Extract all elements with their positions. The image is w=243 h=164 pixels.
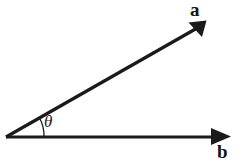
vector-a-label: a: [190, 0, 200, 19]
vector-a-shaft: [6, 27, 199, 137]
vector-b-label: b: [217, 142, 228, 161]
vector-diagram-canvas: a b θ: [0, 0, 243, 164]
angle-theta-label: θ: [44, 113, 52, 130]
vector-a-arrowhead-icon: [189, 21, 207, 38]
vector-diagram-svg: [0, 0, 243, 164]
